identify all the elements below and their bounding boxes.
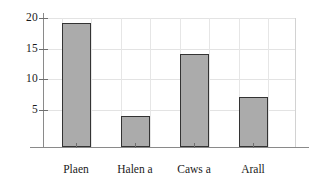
x-axis-line [30,147,309,148]
y-tick-label-5: 5 [32,104,38,116]
y-tick-mark-15 [39,49,48,50]
x-tick-mark-halen-a-finegr [135,143,136,148]
y-tick-mark-5 [39,110,48,111]
x-tick-mark-arall [253,143,254,148]
y-tick-mark-10 [39,79,48,80]
x-tick-mark-plaen [76,143,77,148]
x-tick-label-halen-a-finegr-line1: Halen a [117,163,152,175]
bar-caws-a-nionyn [180,54,209,147]
gridline-horizontal-20 [43,18,296,19]
x-tick-label-caws-a-nionyn-line1: Caws a [177,163,211,175]
gridline-vertical-6 [209,18,210,147]
plot-area [43,18,296,147]
y-tick-label-10: 10 [26,73,38,85]
y-tick-label-20: 20 [26,12,38,24]
y-tick-label-15: 15 [26,43,38,55]
x-tick-mark-caws-a-nionyn [194,143,195,148]
bar-plaen [62,23,91,147]
gridline-vertical-8 [268,18,269,147]
bar-chart: 20 15 10 5 Plaen Halen a finegr Caws a n… [0,0,326,185]
x-tick-label-plaen-line1: Plaen [63,163,89,175]
gridline-vertical-9 [295,18,296,147]
gridline-vertical-4 [150,18,151,147]
y-tick-mark-20 [39,18,48,19]
y-axis-line [43,13,44,147]
x-tick-label-arall-line1: Arall [241,163,265,175]
gridline-vertical-2 [91,18,92,147]
bar-arall [239,97,268,147]
x-tick-label-arall: Arall [213,152,293,175]
